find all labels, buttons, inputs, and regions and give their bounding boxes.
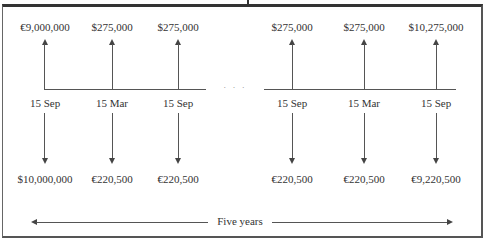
inflow-amount-5: $275,000: [343, 21, 384, 33]
duration-label: Five years: [217, 215, 263, 227]
outflow-arrow-icon: [361, 158, 367, 164]
outflow-amount-2: €220,500: [91, 173, 132, 185]
date-label-5: 15 Mar: [348, 97, 380, 109]
outflow-arrow-icon: [42, 158, 48, 164]
inflow-amount-1: €9,000,000: [20, 21, 70, 33]
inflow-arrow-icon: [42, 39, 48, 45]
outflow-amount-1: $10,000,000: [18, 173, 73, 185]
date-label-6: 15 Sep: [421, 97, 451, 109]
outflow-line: [44, 113, 45, 159]
outflow-amount-6: €9,220,500: [411, 173, 461, 185]
outflow-line: [292, 113, 293, 159]
outflow-arrow-icon: [433, 158, 439, 164]
duration-right-arrow-icon: [447, 219, 453, 225]
outflow-line: [436, 113, 437, 159]
outflow-line: [178, 113, 179, 159]
inflow-amount-4: $275,000: [271, 21, 312, 33]
outflow-line: [364, 113, 365, 159]
date-label-3: 15 Sep: [163, 97, 193, 109]
inflow-line: [178, 44, 179, 90]
outflow-amount-3: €220,500: [157, 173, 198, 185]
inflow-line: [44, 44, 45, 90]
date-label-2: 15 Mar: [96, 97, 128, 109]
inflow-amount-2: $275,000: [91, 21, 132, 33]
inflow-line: [364, 44, 365, 90]
inflow-line: [292, 44, 293, 90]
timeline-ellipsis: · · ·: [223, 82, 247, 92]
inflow-amount-3: $275,000: [157, 21, 198, 33]
date-label-1: 15 Sep: [30, 97, 60, 109]
duration-line-right: [272, 222, 448, 223]
date-label-4: 15 Sep: [277, 97, 307, 109]
duration-line-left: [36, 222, 208, 223]
diagram-frame: [2, 4, 483, 238]
outflow-arrow-icon: [109, 158, 115, 164]
outflow-arrow-icon: [175, 158, 181, 164]
inflow-line: [436, 44, 437, 90]
timeline-left: [44, 89, 206, 90]
outflow-amount-4: €220,500: [271, 173, 312, 185]
inflow-amount-6: $10,275,000: [409, 21, 464, 33]
outflow-amount-5: €220,500: [343, 173, 384, 185]
outflow-arrow-icon: [289, 158, 295, 164]
top-tick: [247, 0, 249, 5]
inflow-line: [112, 44, 113, 90]
outflow-line: [112, 113, 113, 159]
